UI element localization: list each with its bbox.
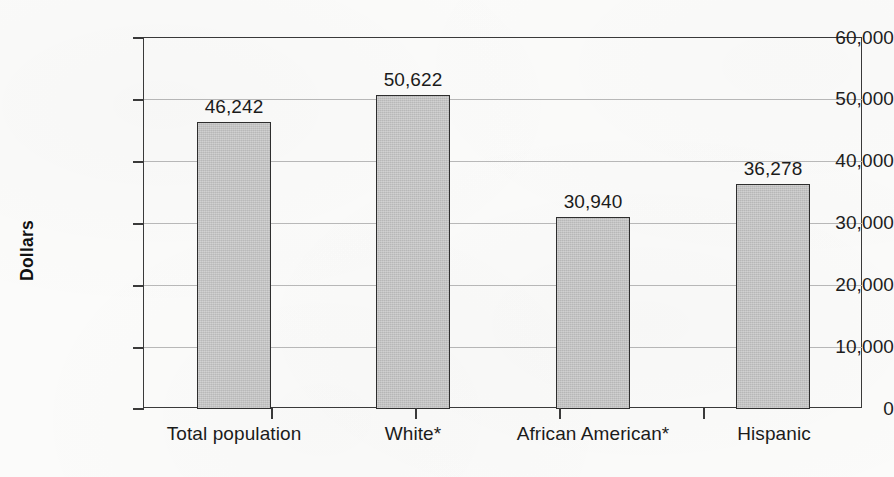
x-axis-label-hispanic: Hispanic xyxy=(694,423,854,445)
y-axis-tick-label-10000: 10,000 xyxy=(768,336,894,358)
bar-texture xyxy=(557,218,629,408)
bar-white[interactable] xyxy=(376,95,450,409)
x-axis-tick-mark-2 xyxy=(415,408,417,419)
y-axis-tick-mark-40000 xyxy=(133,161,144,163)
y-axis-tick-mark-50000 xyxy=(133,99,144,101)
y-axis-title: Dollars xyxy=(17,201,38,301)
y-axis-tick-mark-30000 xyxy=(133,223,144,225)
y-axis-tick-label-0: 0 xyxy=(768,398,894,420)
bar-african-american[interactable] xyxy=(556,217,630,409)
y-axis-tick-mark-20000 xyxy=(133,285,144,287)
bar-value-label-white: 50,622 xyxy=(353,69,473,91)
y-axis-tick-label-60000: 60,000 xyxy=(768,27,894,49)
y-axis-tick-label-50000: 50,000 xyxy=(768,88,894,110)
x-axis-tick-mark-4 xyxy=(703,408,705,419)
y-axis-tick-mark-60000 xyxy=(133,37,144,39)
x-axis-tick-mark-3 xyxy=(559,408,561,419)
x-axis-tick-mark-1 xyxy=(271,408,273,419)
bar-texture xyxy=(198,123,270,408)
x-axis-label-total-population: Total population xyxy=(144,423,324,445)
chart-page: Dollars 60,000 50,000 40,000 30,000 20,0… xyxy=(0,0,894,477)
y-axis-tick-mark-0 xyxy=(133,408,144,410)
bar-value-label-total-population: 46,242 xyxy=(174,96,294,118)
bar-total-population[interactable] xyxy=(197,122,271,409)
bar-value-label-hispanic: 36,278 xyxy=(713,158,833,180)
x-axis-label-white: White* xyxy=(328,423,498,445)
y-axis-tick-label-30000: 30,000 xyxy=(768,212,894,234)
y-axis-tick-label-20000: 20,000 xyxy=(768,274,894,296)
x-axis-label-african-american: African American* xyxy=(490,423,696,445)
bar-texture xyxy=(377,96,449,408)
y-axis-tick-mark-10000 xyxy=(133,347,144,349)
bar-value-label-african-american: 30,940 xyxy=(533,191,653,213)
